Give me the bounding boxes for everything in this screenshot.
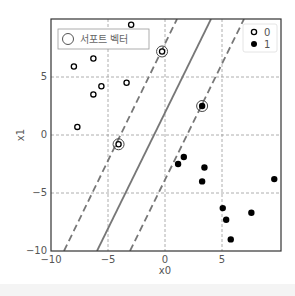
class-1-point [271, 176, 277, 182]
legend-support-vector: 서포트 벡터 [58, 29, 149, 49]
open-circle-icon [251, 29, 256, 34]
svm-chart: −10 −5 0 5 −10 −5 0 5 x0 x1 서포트 벡터 0 1 [0, 0, 295, 296]
support-vector-rings [113, 46, 208, 150]
y-axis-label: x1 [15, 129, 26, 141]
svg-text:−10: −10 [26, 245, 47, 256]
svg-text:0: 0 [264, 27, 270, 38]
svg-text:5: 5 [41, 71, 47, 82]
svg-text:서포트 벡터: 서포트 벡터 [80, 34, 128, 45]
class-0-point [71, 64, 76, 69]
class-1-point [175, 161, 181, 167]
class-1-point [223, 216, 229, 222]
class-0-point [75, 124, 80, 129]
svg-text:−5: −5 [32, 187, 47, 198]
class-1-point [228, 236, 234, 242]
bottom-strip [0, 284, 295, 296]
class-0-point [91, 56, 96, 61]
svg-text:−5: −5 [101, 254, 116, 265]
grid [51, 19, 281, 251]
class-0-point [99, 84, 104, 89]
class-0-point [129, 22, 134, 27]
class-1-point [199, 103, 205, 109]
data-points [71, 22, 277, 242]
x-axis-label: x0 [159, 265, 171, 276]
svg-text:0: 0 [41, 129, 47, 140]
class-1-point [220, 205, 226, 211]
y-tick-labels: −10 −5 0 5 [26, 71, 47, 256]
class-1-point [248, 210, 254, 216]
legend-classes: 0 1 [243, 24, 277, 52]
x-tick-labels: −10 −5 0 5 [40, 254, 225, 265]
class-0-point [124, 80, 129, 85]
svg-text:0: 0 [162, 254, 168, 265]
svg-text:5: 5 [219, 254, 225, 265]
filled-circle-icon [251, 41, 257, 47]
class-0-point [159, 49, 164, 54]
class-1-point [201, 164, 207, 170]
class-0-point [116, 142, 121, 147]
class-0-point [91, 92, 96, 97]
class-1-point [199, 178, 205, 184]
class-1-point [181, 154, 187, 160]
svg-text:1: 1 [264, 39, 270, 50]
